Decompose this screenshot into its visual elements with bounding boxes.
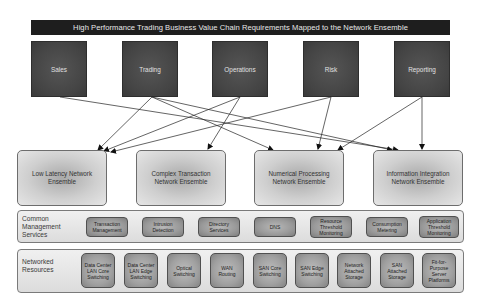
arrow-trading-to-information-integration bbox=[152, 97, 392, 150]
resource-dc-lan-core-switching: Data Center LAN Core Switching bbox=[81, 253, 115, 288]
resource-network-attached-storage: Network Attached Storage bbox=[337, 253, 371, 288]
ensemble-complex-transaction: Complex Transaction Network Ensemble bbox=[136, 150, 226, 206]
networked-resources-band: Networked Resources Data Center LAN Core… bbox=[17, 249, 464, 293]
ensemble-low-latency: Low Latency Network Ensemble bbox=[17, 150, 107, 206]
arrow-reporting-to-numerical-processing bbox=[338, 97, 422, 150]
resource-san-edge-switching: SAN Edge Switching bbox=[295, 253, 329, 288]
service-consumption-metering: Consumption Metering bbox=[366, 217, 408, 237]
resource-san-attached-storage: SAN Attached Storage bbox=[380, 253, 414, 288]
arrow-operations-to-complex-transaction bbox=[208, 97, 240, 149]
service-intrusion-detection: Intrusion Detection bbox=[142, 217, 184, 237]
resource-wan-routing: WAN Routing bbox=[210, 253, 244, 288]
service-application-threshold-monitoring: Application Threshold Monitoring bbox=[419, 216, 459, 238]
service-directory-services: Directory Services bbox=[198, 217, 240, 237]
resource-optical-switching: Optical Switching bbox=[167, 253, 201, 288]
service-resource-threshold-monitoring: Resource Threshold Monitoring bbox=[310, 216, 352, 238]
resource-fit-for-purpose-server-platforms: Fit-for-Purpose Server Platforms bbox=[422, 253, 456, 288]
service-transaction-management: Transaction Management bbox=[86, 217, 128, 237]
arrow-sales-to-information-integration bbox=[60, 97, 398, 150]
ensemble-numerical-processing: Numerical Processing Network Ensemble bbox=[254, 150, 344, 206]
resource-san-core-switching: SAN Core Switching bbox=[253, 253, 287, 288]
resource-dc-lan-edge-switching: Data Center LAN Edge Switching bbox=[124, 253, 158, 288]
ensemble-information-integration: Information Integration Network Ensemble bbox=[373, 150, 463, 206]
management-services-label: Common Management Services bbox=[22, 215, 82, 239]
networked-resources-label: Networked Resources bbox=[22, 258, 74, 274]
arrow-risk-to-numerical-processing bbox=[318, 97, 331, 149]
arrow-trading-to-low-latency bbox=[98, 97, 152, 150]
service-dns: DNS bbox=[254, 217, 296, 237]
management-services-band: Common Management Services Transaction M… bbox=[17, 210, 464, 243]
